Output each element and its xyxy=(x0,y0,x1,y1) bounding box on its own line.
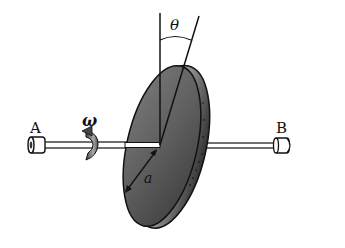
disk-on-axle-diagram: θ ω A B a xyxy=(0,0,345,248)
label-theta: θ xyxy=(170,16,179,34)
label-a-point: A xyxy=(29,119,41,137)
theta-arc xyxy=(160,37,191,41)
label-b-point: B xyxy=(276,119,287,137)
label-radius: a xyxy=(144,170,152,186)
bearing-a xyxy=(28,137,45,153)
label-omega: ω xyxy=(82,111,97,130)
bearing-b xyxy=(274,138,291,153)
axle-right xyxy=(200,143,278,148)
axle-face-segment xyxy=(125,143,160,148)
